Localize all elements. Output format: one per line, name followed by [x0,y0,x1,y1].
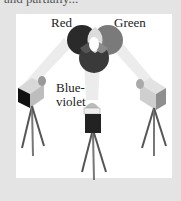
red-projector [18,76,46,156]
additive-color-diagram [0,0,181,201]
blue-violet-projector [82,103,106,180]
red-label: Red [51,16,72,30]
white-center [89,37,99,51]
green-label: Green [114,16,146,30]
blue-violet-label-line2: violet [56,95,86,109]
blue-violet-label-line1: Blue- [56,81,85,95]
green-projector [136,78,166,156]
